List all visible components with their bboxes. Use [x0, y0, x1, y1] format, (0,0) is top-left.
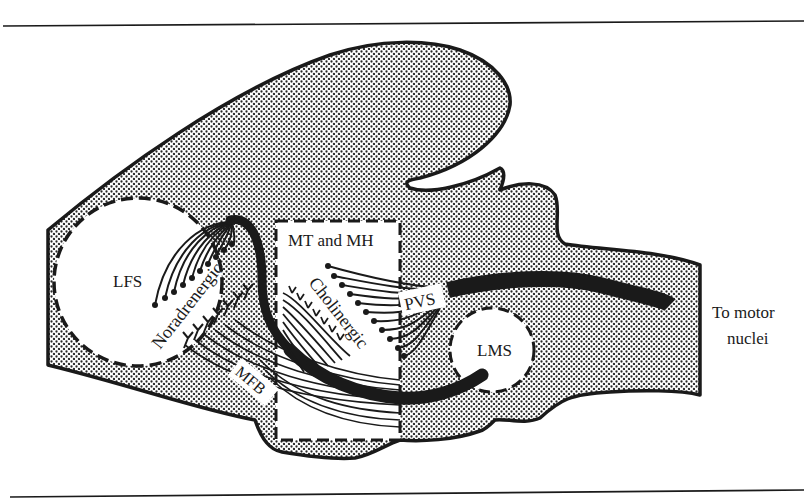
diagram-canvas: PVS MFB LFS MT and MH LMS Noradrenergic …: [0, 0, 804, 502]
brain-pathway-figure: PVS MFB LFS MT and MH LMS Noradrenergic …: [0, 0, 804, 502]
lfs-label: LFS: [113, 272, 142, 291]
mt-mh-region: [276, 221, 400, 440]
bottom-rule: [10, 490, 804, 497]
to-motor-label-line1: To motor: [712, 303, 775, 322]
to-motor-label-line2: nuclei: [727, 329, 769, 348]
lms-label: LMS: [477, 341, 512, 360]
mt-mh-label: MT and MH: [288, 231, 374, 250]
top-rule: [3, 21, 804, 26]
